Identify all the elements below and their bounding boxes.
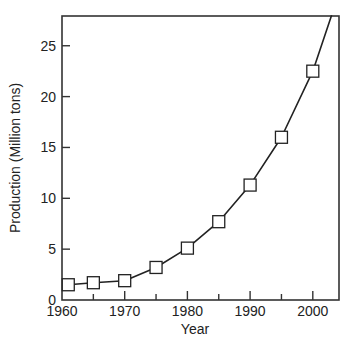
x-tick-label: 2000: [297, 303, 328, 319]
data-point-marker: [87, 277, 99, 289]
series-line: [68, 15, 331, 285]
x-tick-label: 1960: [46, 303, 77, 319]
data-point-marker: [62, 279, 74, 291]
y-axis: 0510152025: [40, 38, 70, 308]
data-point-marker: [275, 131, 287, 143]
production-chart: 0510152025 19601970198019902000 Year Pro…: [0, 0, 355, 348]
data-series: [62, 15, 331, 291]
plot-frame: [62, 16, 339, 300]
data-point-marker: [119, 275, 131, 287]
x-axis: 19601970198019902000: [46, 291, 328, 319]
y-tick-label: 15: [40, 139, 56, 155]
y-tick-label: 25: [40, 38, 56, 54]
x-axis-label: Year: [181, 321, 210, 337]
data-point-marker: [307, 65, 319, 77]
data-point-marker: [244, 179, 256, 191]
plot-border: [62, 16, 339, 300]
data-point-marker: [213, 216, 225, 228]
data-point-marker: [181, 242, 193, 254]
y-tick-label: 20: [40, 89, 56, 105]
x-tick-label: 1990: [235, 303, 266, 319]
y-tick-label: 5: [48, 241, 56, 257]
x-tick-label: 1970: [109, 303, 140, 319]
y-tick-label: 10: [40, 190, 56, 206]
y-axis-label: Production (Million tons): [7, 83, 23, 233]
data-point-marker: [150, 261, 162, 273]
x-tick-label: 1980: [172, 303, 203, 319]
